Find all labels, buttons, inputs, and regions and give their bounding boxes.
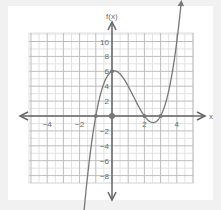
x-axis-label: x xyxy=(209,112,213,121)
y-tick-label: 8 xyxy=(105,52,110,61)
y-tick-label: −2 xyxy=(100,127,110,136)
x-tick-label: 2 xyxy=(142,120,147,129)
y-tick-label: −4 xyxy=(100,142,110,151)
marked-point xyxy=(142,114,146,118)
function-graph: x f(x) −4−224108642−2−4−6−8 xyxy=(0,0,221,210)
marked-point xyxy=(110,69,114,73)
y-tick-label: −6 xyxy=(100,157,110,166)
y-tick-label: −8 xyxy=(100,172,110,181)
x-tick-label: 4 xyxy=(175,120,180,129)
y-tick-label: 2 xyxy=(105,97,110,106)
marked-point xyxy=(94,114,98,118)
y-tick-label: 4 xyxy=(105,82,110,91)
axes: x f(x) xyxy=(20,12,213,200)
y-tick-label: 10 xyxy=(100,38,109,47)
marked-point xyxy=(109,113,115,119)
marked-point xyxy=(159,114,163,118)
y-axis-label: f(x) xyxy=(106,12,118,21)
x-tick-label: −4 xyxy=(43,120,53,129)
function-curve xyxy=(82,6,181,210)
x-tick-label: −2 xyxy=(75,120,85,129)
curve-upper-arrow-icon xyxy=(178,0,184,6)
